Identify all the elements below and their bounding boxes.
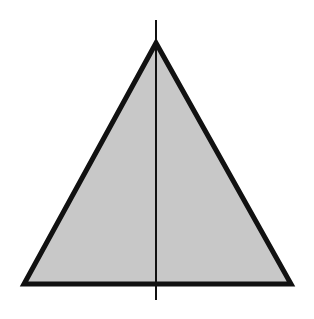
diagram-canvas	[0, 0, 314, 319]
triangle	[24, 43, 291, 284]
